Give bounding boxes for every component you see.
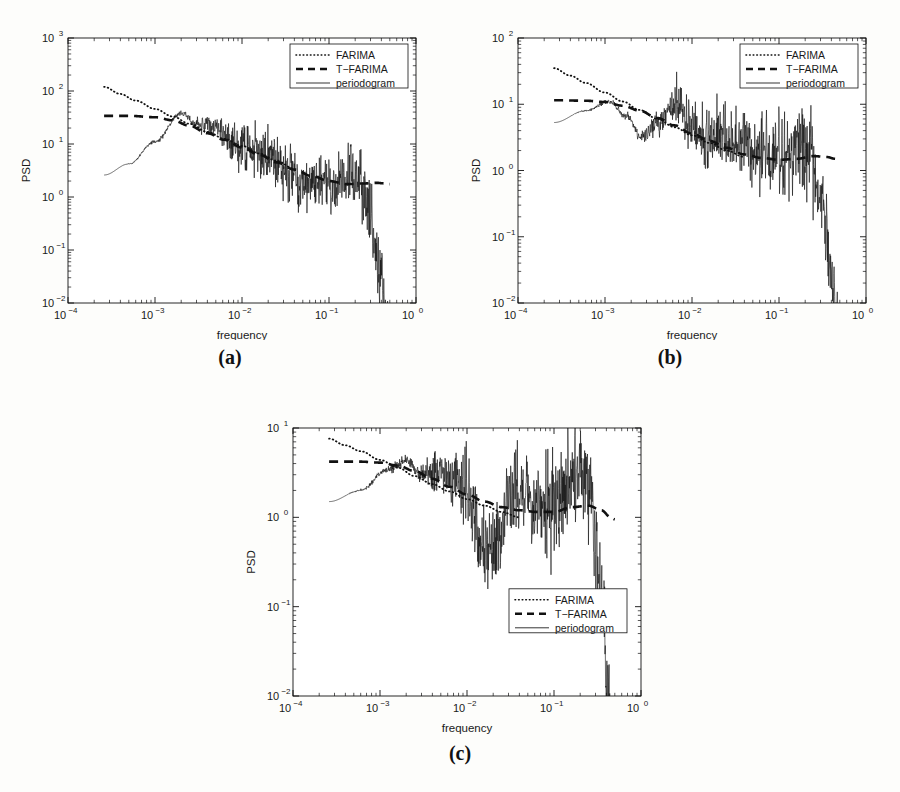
x-axis-label: frequency [667,329,718,340]
x-axis-label: frequency [442,722,493,734]
legend-label: periodogram [336,77,395,89]
x-tick-label: 10−2 [678,306,702,321]
svg-text:10: 10 [492,297,504,309]
y-tick-label: 101 [267,419,289,434]
svg-text:2: 2 [509,29,514,38]
panel-c: 10−410−310−210−110010−210−1100101frequen… [225,400,675,740]
x-axis-label: frequency [217,329,268,340]
x-tick-label: 10−2 [228,306,252,321]
panel-b: 10−410−310−210−110010−210−1100101102freq… [450,10,900,340]
svg-text:10: 10 [42,32,54,44]
legend: FARIMAT−FARIMAperiodogram [509,589,627,634]
svg-text:1: 1 [59,135,64,144]
y-tick-label: 10−1 [267,598,291,613]
y-tick-label: 10−1 [492,228,516,243]
svg-text:0: 0 [59,188,64,197]
svg-text:10: 10 [279,702,291,714]
x-tick-label: 10−4 [504,306,528,321]
y-tick-label: 102 [42,82,64,97]
svg-text:10: 10 [540,702,552,714]
svg-text:−3: −3 [380,699,390,708]
legend-label: T−FARIMA [555,608,607,620]
panel-a: 10−410−310−210−110010−210−1100101102103f… [0,10,450,340]
svg-text:10: 10 [42,191,54,203]
y-tick-label: 10−2 [267,687,291,702]
legend-label: periodogram [555,622,614,634]
y-axis-label: PSD [20,159,32,183]
y-tick-label: 100 [42,188,64,203]
svg-text:10: 10 [42,244,54,256]
svg-text:0: 0 [284,508,289,517]
svg-text:−1: −1 [554,699,564,708]
svg-text:0: 0 [869,306,874,315]
svg-text:10: 10 [141,309,153,321]
svg-text:10: 10 [492,231,504,243]
y-axis-label: PSD [245,550,257,574]
svg-text:−3: −3 [605,306,615,315]
legend-label: FARIMA [786,49,825,61]
y-tick-label: 10−1 [42,241,66,256]
svg-text:3: 3 [59,29,64,38]
svg-text:10: 10 [42,138,54,150]
svg-text:10: 10 [366,702,378,714]
x-tick-label: 100 [402,306,424,321]
svg-text:10: 10 [267,422,279,434]
svg-text:10: 10 [852,309,864,321]
x-tick-label: 10−3 [591,306,615,321]
y-axis-label: PSD [470,159,482,183]
plot-frame [293,428,641,696]
svg-text:−1: −1 [56,241,66,250]
svg-text:10: 10 [627,702,639,714]
svg-text:10: 10 [492,165,504,177]
legend-label: FARIMA [555,594,594,606]
svg-text:10: 10 [504,309,516,321]
panel-c-chart: 10−410−310−210−110010−210−1100101frequen… [225,400,675,740]
svg-text:−1: −1 [779,306,789,315]
svg-text:0: 0 [509,162,514,171]
panel-a-caption: (a) [200,346,260,369]
legend-label: T−FARIMA [336,63,388,75]
legend: FARIMAT−FARIMAperiodogram [290,44,408,89]
y-tick-label: 101 [492,95,514,110]
svg-text:−2: −2 [467,699,477,708]
svg-text:10: 10 [267,601,279,613]
svg-text:10: 10 [315,309,327,321]
y-tick-label: 10−2 [42,294,66,309]
svg-text:10: 10 [678,309,690,321]
y-tick-label: 100 [492,162,514,177]
svg-text:−4: −4 [293,699,303,708]
legend: FARIMAT−FARIMAperiodogram [740,44,858,89]
svg-text:10: 10 [267,511,279,523]
x-tick-label: 10−4 [279,699,303,714]
svg-text:0: 0 [419,306,424,315]
svg-text:10: 10 [42,297,54,309]
x-tick-label: 10−2 [453,699,477,714]
svg-text:−2: −2 [56,294,66,303]
svg-text:10: 10 [591,309,603,321]
svg-text:10: 10 [765,309,777,321]
panel-c-caption: (c) [430,742,490,765]
panel-a-chart: 10−410−310−210−110010−210−1100101102103f… [0,10,450,340]
svg-text:−1: −1 [329,306,339,315]
svg-text:10: 10 [453,702,465,714]
svg-text:−2: −2 [242,306,252,315]
x-tick-label: 10−3 [366,699,390,714]
panel-b-chart: 10−410−310−210−110010−210−1100101102freq… [450,10,900,340]
x-tick-label: 10−3 [141,306,165,321]
svg-text:0: 0 [644,699,649,708]
y-tick-label: 10−2 [492,294,516,309]
svg-text:−1: −1 [506,228,516,237]
x-tick-label: 10−1 [765,306,789,321]
svg-text:10: 10 [228,309,240,321]
svg-text:2: 2 [59,82,64,91]
legend-label: T−FARIMA [786,63,838,75]
svg-text:10: 10 [492,98,504,110]
legend-label: FARIMA [336,49,375,61]
svg-text:−2: −2 [692,306,702,315]
svg-text:1: 1 [509,95,514,104]
svg-text:10: 10 [54,309,66,321]
svg-text:10: 10 [267,690,279,702]
x-tick-label: 100 [627,699,649,714]
y-tick-label: 101 [42,135,64,150]
svg-text:−2: −2 [506,294,516,303]
